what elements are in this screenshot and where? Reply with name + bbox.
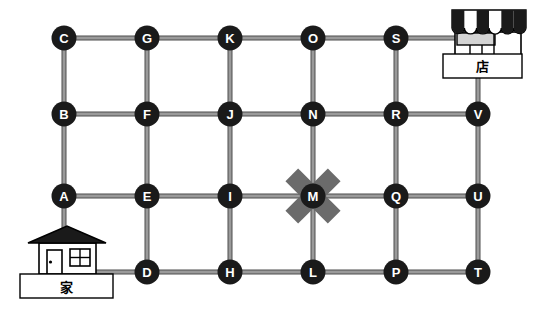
node-c[interactable]: C bbox=[52, 26, 77, 51]
house-label: 家 bbox=[60, 280, 74, 295]
node-circle bbox=[384, 260, 409, 285]
node-circle bbox=[52, 102, 77, 127]
node-circle bbox=[218, 260, 243, 285]
roads-layer bbox=[64, 38, 478, 272]
node-t[interactable]: T bbox=[466, 260, 491, 285]
node-d[interactable]: D bbox=[135, 260, 160, 285]
shop-icon: 店 bbox=[443, 10, 526, 78]
node-h[interactable]: H bbox=[218, 260, 243, 285]
street-map: 家 店 CGKOSBFJNRVAEIMQUDHLPT bbox=[0, 0, 550, 315]
node-circle bbox=[218, 184, 243, 209]
node-i[interactable]: I bbox=[218, 184, 243, 209]
node-circle bbox=[218, 26, 243, 51]
shop-awning-stripe-2 bbox=[477, 10, 489, 34]
house-doorknob bbox=[49, 260, 52, 263]
shop-counter bbox=[457, 33, 495, 45]
node-p[interactable]: P bbox=[384, 260, 409, 285]
node-k[interactable]: K bbox=[218, 26, 243, 51]
node-q[interactable]: Q bbox=[384, 184, 409, 209]
node-circle bbox=[135, 260, 160, 285]
house-roof bbox=[28, 226, 106, 243]
node-circle bbox=[52, 26, 77, 51]
shop-awning-stripe-4 bbox=[514, 10, 526, 34]
node-v[interactable]: V bbox=[466, 102, 491, 127]
node-circle bbox=[52, 184, 77, 209]
node-b[interactable]: B bbox=[52, 102, 77, 127]
shop-label: 店 bbox=[476, 59, 489, 74]
node-a[interactable]: A bbox=[52, 184, 77, 209]
node-circle bbox=[301, 184, 326, 209]
shop-awning-stripe-1 bbox=[452, 10, 464, 34]
node-s[interactable]: S bbox=[384, 26, 409, 51]
place-connector-roads bbox=[64, 38, 478, 272]
node-circle bbox=[466, 184, 491, 209]
node-circle bbox=[384, 184, 409, 209]
node-circle bbox=[301, 102, 326, 127]
node-j[interactable]: J bbox=[218, 102, 243, 127]
shop-awning-stripe-3 bbox=[501, 10, 513, 34]
node-circle bbox=[135, 184, 160, 209]
node-circle bbox=[384, 102, 409, 127]
node-circle bbox=[301, 260, 326, 285]
node-circle bbox=[135, 26, 160, 51]
node-circle bbox=[466, 260, 491, 285]
node-o[interactable]: O bbox=[301, 26, 326, 51]
node-r[interactable]: R bbox=[384, 102, 409, 127]
map-canvas: 家 店 CGKOSBFJNRVAEIMQUDHLPT bbox=[0, 0, 550, 315]
node-u[interactable]: U bbox=[466, 184, 491, 209]
node-circle bbox=[384, 26, 409, 51]
node-circle bbox=[301, 26, 326, 51]
node-n[interactable]: N bbox=[301, 102, 326, 127]
node-g[interactable]: G bbox=[135, 26, 160, 51]
node-m[interactable]: M bbox=[301, 184, 326, 209]
nodes-layer: CGKOSBFJNRVAEIMQUDHLPT bbox=[52, 26, 491, 285]
node-e[interactable]: E bbox=[135, 184, 160, 209]
shop-awning bbox=[452, 10, 526, 34]
node-circle bbox=[218, 102, 243, 127]
node-circle bbox=[466, 102, 491, 127]
house-icon: 家 bbox=[20, 226, 113, 298]
node-f[interactable]: F bbox=[135, 102, 160, 127]
node-circle bbox=[135, 102, 160, 127]
node-l[interactable]: L bbox=[301, 260, 326, 285]
